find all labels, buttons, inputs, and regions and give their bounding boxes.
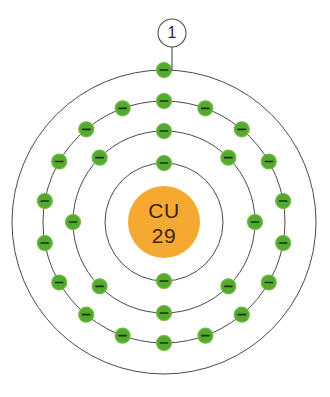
electron xyxy=(79,122,94,137)
nucleus-element-symbol: CU xyxy=(148,199,179,222)
electron xyxy=(115,328,130,343)
electron xyxy=(92,150,107,165)
electron xyxy=(157,124,172,139)
electron xyxy=(66,215,81,230)
electron xyxy=(198,328,213,343)
electron xyxy=(198,101,213,116)
electron xyxy=(52,154,67,169)
electron xyxy=(221,150,236,165)
electron xyxy=(221,279,236,294)
electron xyxy=(234,307,249,322)
electron xyxy=(157,156,172,171)
electron xyxy=(261,154,276,169)
electron xyxy=(37,236,52,251)
electron xyxy=(52,275,67,290)
electron xyxy=(234,122,249,137)
electron xyxy=(157,306,172,321)
electron xyxy=(157,94,172,109)
electron xyxy=(37,193,52,208)
callout-label: 1 xyxy=(168,24,177,41)
atom-diagram-canvas: CU 29 1 xyxy=(0,0,330,397)
nucleus-circle xyxy=(128,186,200,258)
electron xyxy=(276,236,291,251)
electron xyxy=(79,307,94,322)
nucleus-atomic-number: 29 xyxy=(152,224,176,247)
electron xyxy=(92,279,107,294)
electron xyxy=(115,101,130,116)
nucleus: CU 29 xyxy=(128,186,200,258)
electron xyxy=(157,63,172,78)
electron xyxy=(157,336,172,351)
electron xyxy=(248,215,263,230)
bohr-model-figure: CU 29 1 xyxy=(0,0,330,397)
electron xyxy=(276,193,291,208)
electron xyxy=(157,274,172,289)
electron xyxy=(261,275,276,290)
